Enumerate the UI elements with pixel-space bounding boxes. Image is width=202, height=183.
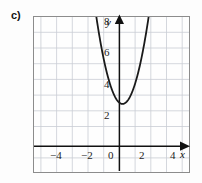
x-tick-label-4: 4 — [170, 150, 176, 161]
y-axis-label: y — [106, 17, 111, 28]
parabola-curve — [79, 0, 165, 104]
y-axis-arrowhead — [115, 15, 124, 25]
x-tick-label--4: −4 — [50, 150, 62, 161]
x-axis-label: x — [180, 149, 185, 160]
figure-canvas: c) — [0, 0, 202, 183]
x-tick-label-2: 2 — [139, 150, 145, 161]
x-tick-label-0: 0 — [108, 150, 114, 161]
y-tick-label-2: 2 — [104, 110, 110, 121]
y-tick-label-4: 4 — [104, 79, 110, 90]
y-tick-label-6: 6 — [104, 47, 110, 58]
x-tick-label--2: −2 — [81, 150, 93, 161]
